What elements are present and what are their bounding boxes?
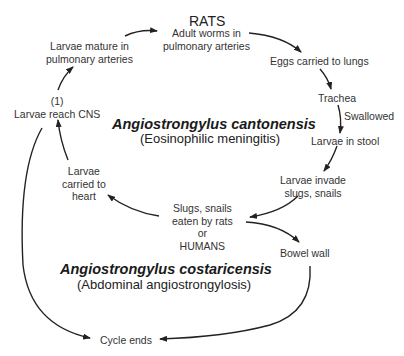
arrow-eggs-to-trachea bbox=[320, 69, 331, 89]
species-costaricensis-name: Angiostrongylus costaricensis bbox=[60, 261, 272, 277]
node-eggs-lungs: Eggs carried to lungs bbox=[270, 55, 369, 68]
arrow-mature-to-adult bbox=[125, 31, 157, 36]
node-swallowed: Swallowed bbox=[344, 110, 394, 123]
species-cantonensis-disease: (Eosinophilic meningitis) bbox=[140, 131, 280, 146]
arrow-cns-to-cycle-ends bbox=[22, 128, 90, 338]
node-larvae-invade: Larvae invade slugs, snails bbox=[280, 174, 346, 199]
arrow-invade-to-slugs bbox=[250, 196, 298, 217]
node-larvae-heart: Larvae carried to heart bbox=[62, 165, 106, 203]
arrow-slugs-to-heart bbox=[108, 195, 159, 216]
arrow-slugs-to-bowel bbox=[246, 222, 299, 242]
node-larvae-cns: (1) Larvae reach CNS bbox=[14, 95, 100, 120]
node-bowel-wall: Bowel wall bbox=[280, 247, 330, 260]
node-trachea: Trachea bbox=[318, 92, 356, 105]
arrow-cns-to-mature bbox=[58, 67, 73, 90]
species-cantonensis-name: Angiostrongylus cantonensis bbox=[112, 116, 316, 132]
node-adult-worms: Adult worms in pulmonary arteries bbox=[163, 27, 250, 52]
arrow-stool-to-invade bbox=[324, 146, 337, 171]
node-slugs-eaten: Slugs, snails eaten by rats or HUMANS bbox=[172, 202, 233, 252]
node-cycle-ends: Cycle ends bbox=[100, 334, 152, 347]
arrow-heart-to-cns bbox=[58, 120, 68, 160]
arrow-trachea-to-stool bbox=[338, 105, 341, 133]
species-costaricensis-disease: (Abdominal angiostrongylosis) bbox=[77, 277, 251, 292]
node-larvae-mature: Larvae mature in pulmonary arteries bbox=[46, 40, 133, 65]
arrow-adult-to-eggs bbox=[249, 33, 301, 52]
node-larvae-stool: Larvae in stool bbox=[311, 135, 379, 148]
